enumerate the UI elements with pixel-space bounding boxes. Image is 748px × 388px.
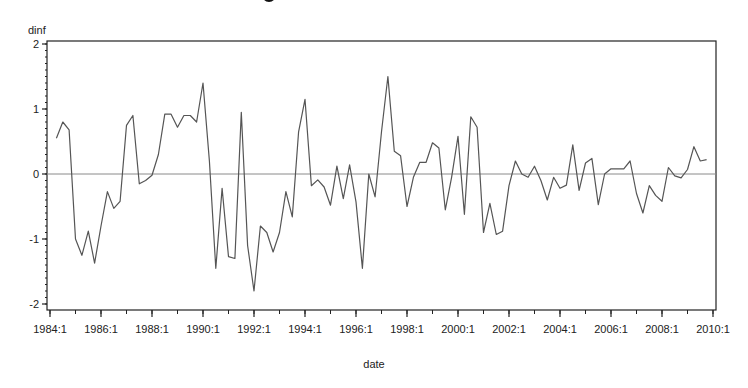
y-tick-label: 2 [33, 38, 39, 50]
x-tick-label: 1986:1 [84, 323, 118, 335]
x-tick-label: 1990:1 [186, 323, 220, 335]
x-tick-label: 2004:1 [543, 323, 577, 335]
x-tick-label: 1994:1 [288, 323, 322, 335]
y-tick-label: -2 [29, 298, 39, 310]
x-tick-label: 2006:1 [594, 323, 628, 335]
y-tick-label: 1 [33, 103, 39, 115]
plot-frame [47, 41, 716, 310]
x-tick-label: 2008:1 [645, 323, 679, 335]
x-tick-label: 1988:1 [135, 323, 169, 335]
x-tick-label: 1996:1 [339, 323, 373, 335]
y-tick-label: 0 [33, 168, 39, 180]
x-tick-label: 1992:1 [237, 323, 271, 335]
plot-area: 210-1-21984:11986:11988:11990:11992:1199… [0, 0, 748, 388]
x-tick-label: 2010:1 [696, 323, 730, 335]
series-line-dinf [56, 77, 706, 292]
x-tick-label: 1984:1 [33, 323, 67, 335]
x-tick-label: 2002:1 [492, 323, 526, 335]
x-axis-label: date [0, 358, 748, 370]
x-tick-label: 2000:1 [441, 323, 475, 335]
y-tick-label: -1 [29, 233, 39, 245]
x-tick-label: 1998:1 [390, 323, 424, 335]
